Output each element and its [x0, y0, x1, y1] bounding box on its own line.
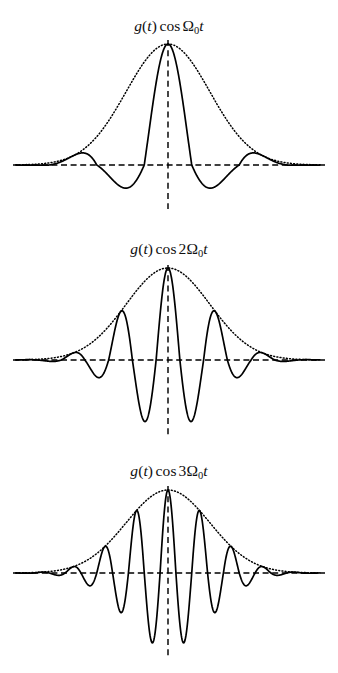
- plot-panel-3: g(t)cos3Ω0t: [0, 446, 338, 670]
- panel-1-plot-area: [0, 0, 338, 224]
- panel-3-plot-area: [0, 446, 338, 670]
- plot-panel-1: g(t)cosΩ0t: [0, 0, 338, 224]
- plot-panel-2: g(t)cos2Ω0t: [0, 223, 338, 447]
- panel-2-plot-area: [0, 223, 338, 447]
- panel-2-envelope-curve: [16, 268, 320, 360]
- modulation-figure: g(t)cosΩ0t g(t)cos2Ω0t g(t)cos3Ω0t: [0, 0, 338, 673]
